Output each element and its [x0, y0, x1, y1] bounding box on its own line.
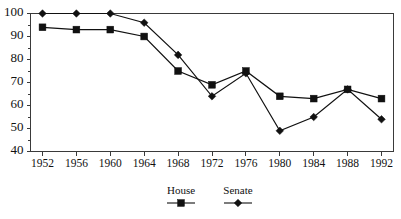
legend-label-senate: Senate	[223, 184, 252, 196]
x-tick-label: 1972	[201, 157, 224, 169]
x-tick-label: 1992	[370, 157, 393, 169]
data-point-senate	[39, 10, 47, 18]
data-point-house	[378, 95, 385, 102]
y-tick-label: 60	[11, 96, 24, 111]
data-point-house	[276, 93, 283, 100]
data-series-group	[39, 10, 386, 135]
data-point-house	[175, 68, 182, 75]
x-tick-label: 1984	[302, 157, 325, 169]
x-tick-label: 1952	[31, 157, 54, 169]
y-tick-label: 40	[11, 142, 24, 157]
chart-container: 405060708090100 195219561960196419681972…	[0, 0, 401, 219]
x-tick-label: 1976	[234, 157, 257, 169]
line-chart: 405060708090100 195219561960196419681972…	[0, 0, 401, 219]
x-tick-label: 1988	[336, 157, 359, 169]
data-point-house	[209, 81, 216, 88]
x-tick-label: 1980	[268, 157, 291, 169]
data-point-senate	[73, 10, 81, 18]
y-tick-label: 50	[11, 119, 24, 134]
data-point-senate	[107, 10, 115, 18]
data-point-house	[73, 26, 80, 33]
legend-marker-house	[178, 200, 185, 207]
y-tick-label: 100	[4, 4, 24, 19]
y-axis: 405060708090100	[4, 4, 31, 157]
y-tick-label: 70	[11, 73, 24, 88]
x-axis: 1952195619601964196819721976198019841988…	[31, 152, 393, 169]
y-tick-label: 90	[11, 27, 24, 42]
data-point-house	[141, 33, 148, 40]
x-tick-label: 1968	[167, 157, 190, 169]
data-point-senate	[276, 127, 284, 135]
x-tick-label: 1956	[65, 157, 88, 169]
x-tick-label: 1964	[133, 157, 156, 169]
legend-marker-senate	[234, 199, 242, 207]
series-line-senate	[43, 14, 382, 131]
data-point-house	[107, 26, 114, 33]
chart-legend: HouseSenate	[167, 184, 253, 207]
legend-label-house: House	[167, 184, 195, 196]
data-point-house	[39, 24, 46, 31]
x-tick-label: 1960	[99, 157, 122, 169]
y-tick-label: 80	[11, 50, 24, 65]
data-point-house	[310, 95, 317, 102]
